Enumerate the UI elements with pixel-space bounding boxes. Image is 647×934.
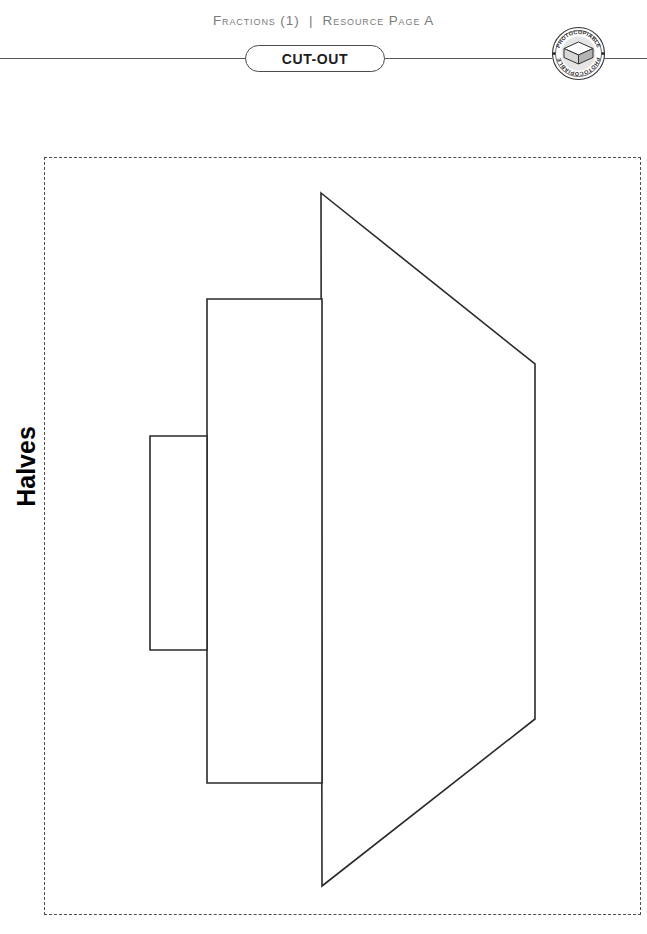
shape-small-rectangle xyxy=(150,436,207,650)
fraction-shapes-canvas xyxy=(0,0,647,934)
shape-medium-rectangle xyxy=(207,299,322,783)
shape-large-trapezoid xyxy=(321,193,535,886)
